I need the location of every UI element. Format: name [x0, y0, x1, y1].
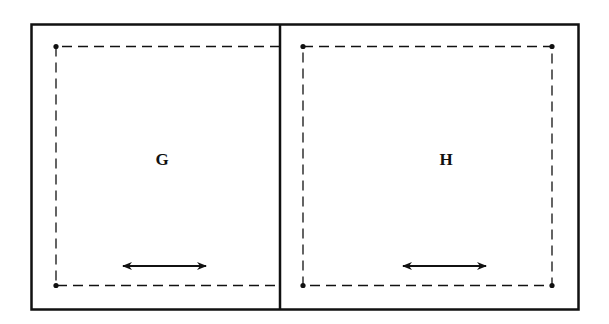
diagram-canvas: G H: [0, 0, 609, 324]
panel-label-g: G: [155, 150, 168, 169]
outer-frame: [32, 25, 579, 310]
corner-point-icon: [549, 44, 554, 49]
corner-point-icon: [300, 283, 305, 288]
corner-point-icon: [300, 44, 305, 49]
corner-point-icon: [53, 283, 58, 288]
panel-g: G: [53, 44, 280, 288]
panel-label-h: H: [439, 150, 452, 169]
corner-point-icon: [549, 283, 554, 288]
panel-h: H: [300, 44, 554, 288]
corner-point-icon: [53, 44, 58, 49]
dashed-boundary-h: [303, 47, 552, 286]
